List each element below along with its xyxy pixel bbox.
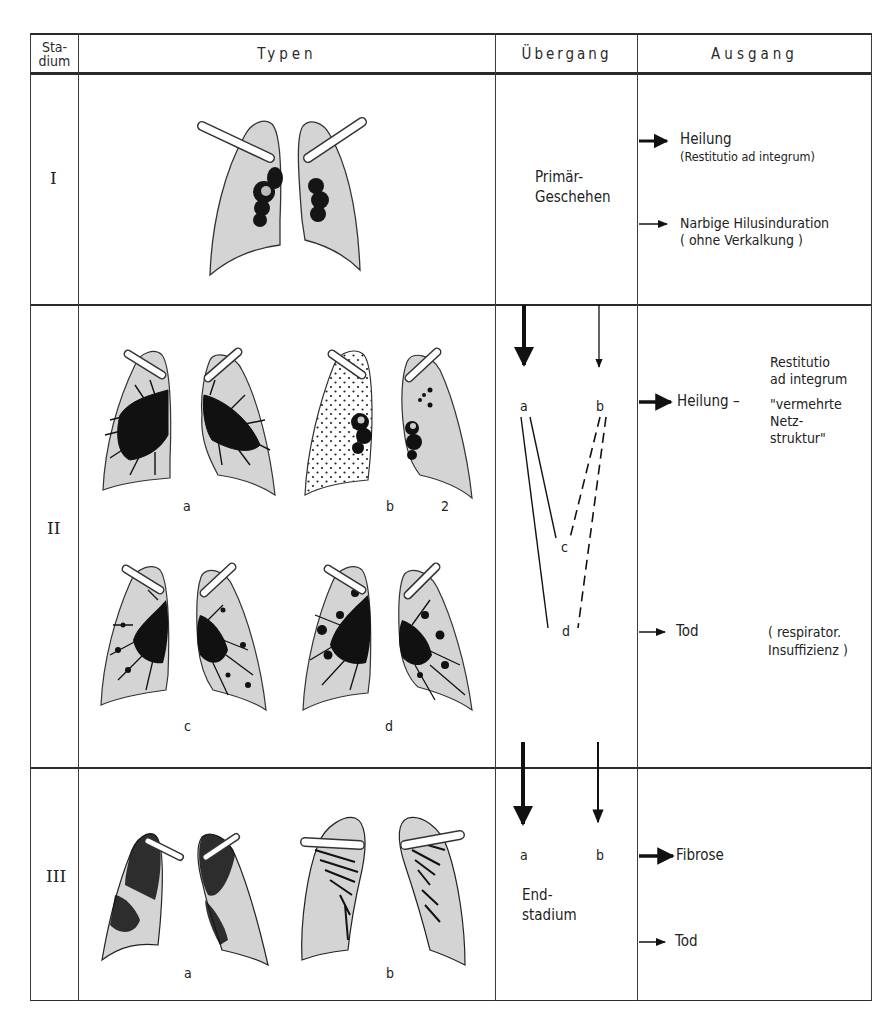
header-ausgang: Ausgang [638, 34, 871, 73]
outcome-hilusinduration: Narbige Hilusinduration ( ohne Verkalkun… [680, 215, 829, 249]
header-uebergang: Übergang [496, 34, 637, 73]
outcome-tod-stage3: Tod [675, 933, 698, 950]
transition-endstadium: End- stadium [522, 885, 577, 925]
thick-arrow-icon [639, 851, 675, 861]
table-left-border [30, 33, 31, 1001]
thin-arrow-icon [639, 937, 669, 947]
lung-illustration-2a [100, 340, 280, 500]
note-insuffizienz: Insuffizienz ) [768, 641, 848, 659]
figure-label-2-number: 2 [441, 498, 449, 514]
transition-primaer-line1: Primär- [535, 167, 611, 187]
outcome-heilung-notes: Restitutio ad integrum "vermehrte Netz- … [770, 354, 847, 447]
header-stadium-line1: Sta- [42, 40, 67, 54]
note-struktur: struktur" [770, 430, 847, 447]
note-respirator: ( respirator. [768, 623, 848, 641]
transition-node-b-stage3: b [596, 847, 604, 863]
transition-primaer-line2: Geschehen [535, 187, 611, 207]
outcome-heilung-stage2: Heilung – [677, 393, 740, 410]
note-netz: Netz- [770, 413, 847, 430]
outcome-heilung-stage1: Heilung (Restitutio ad integrum) [680, 131, 815, 165]
transition-node-c: c [561, 539, 568, 555]
lung-illustration-3b [300, 810, 475, 970]
thick-arrow-icon [639, 397, 673, 407]
outcome-hilusinduration-label: Narbige Hilusinduration [680, 215, 829, 232]
header-stadium: Sta- dium [31, 34, 78, 73]
note-vermehrte: "vermehrte [770, 396, 847, 413]
outcome-fibrose: Fibrose [676, 847, 724, 864]
outcome-tod-stage2: Tod [676, 623, 699, 640]
col-divider-uebergang [637, 33, 638, 1001]
table-right-border [871, 33, 872, 1001]
stadium-III: III [46, 866, 66, 886]
thin-arrow-icon [639, 219, 669, 229]
figure-label-2b: b [386, 498, 394, 514]
endstadium-line1: End- [522, 885, 577, 905]
row-divider-2-3 [30, 767, 872, 769]
endstadium-line2: stadium [522, 905, 577, 925]
lung-illustration-2d [300, 555, 480, 715]
stadium-II: II [47, 518, 60, 538]
transition-node-a: a [520, 398, 528, 414]
lung-illustration-2c [98, 555, 278, 715]
figure-label-2d: d [385, 718, 393, 734]
transition-node-b: b [596, 398, 604, 414]
lung-illustration-3a [100, 825, 275, 965]
outcome-tod-notes: ( respirator. Insuffizienz ) [768, 623, 848, 659]
stadium-I: I [50, 168, 57, 188]
header-typen: Typen [79, 34, 495, 73]
thin-arrow-icon [639, 627, 669, 637]
figure-label-3b: b [386, 965, 394, 981]
col-divider-stadium [78, 33, 79, 1001]
transition-node-a-stage3: a [520, 847, 528, 863]
transition-diagram-stage3 [496, 742, 637, 842]
lung-illustration-2b [302, 340, 482, 500]
transition-primaer: Primär- Geschehen [535, 167, 611, 207]
transition-diagram-stage2 [496, 305, 637, 645]
outcome-heilung-note: (Restitutio ad integrum) [680, 148, 815, 165]
figure-label-2a: a [183, 498, 191, 514]
figure-label-3a: a [184, 965, 192, 981]
header-stadium-line2: dium [39, 54, 71, 68]
outcome-hilusinduration-note: ( ohne Verkalkung ) [680, 232, 829, 249]
transition-node-d: d [562, 623, 570, 639]
note-ad-integrum: ad integrum [770, 371, 847, 388]
figure-label-2c: c [184, 718, 191, 734]
outcome-heilung-label: Heilung [680, 131, 815, 148]
table-bottom-border [30, 1000, 872, 1001]
thick-arrow-icon [639, 136, 669, 146]
row-divider-1-2 [30, 304, 872, 306]
note-restitutio: Restitutio [770, 354, 847, 371]
lung-illustration-stage1 [190, 110, 380, 280]
